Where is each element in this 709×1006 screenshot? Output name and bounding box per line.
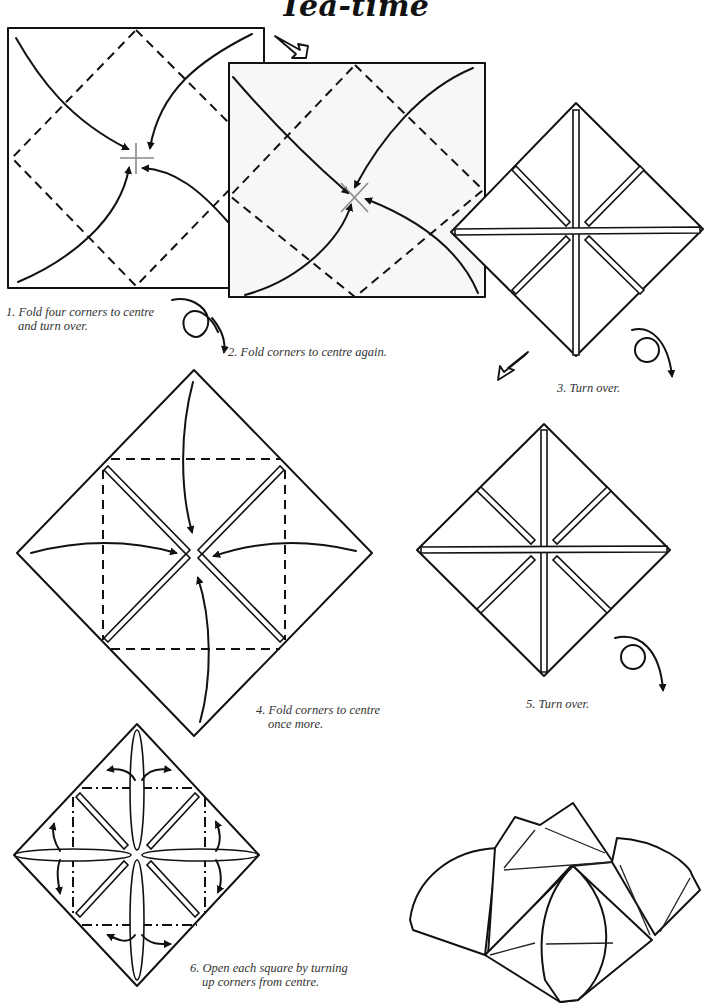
step6-caption: 6. Open each square by turning up corner… bbox=[190, 961, 348, 989]
step2-caption: 2. Fold corners to centre again. bbox=[228, 345, 387, 359]
turn-over-icon bbox=[615, 637, 663, 690]
next-step-arrow-icon bbox=[498, 352, 528, 380]
step6-diamond bbox=[14, 724, 259, 986]
step2-square bbox=[229, 63, 485, 297]
turn-over-icon bbox=[632, 329, 672, 376]
step4-caption-line2: once more. bbox=[256, 717, 380, 731]
step3-diamond bbox=[451, 103, 703, 356]
step3-caption: 3. Turn over. bbox=[557, 381, 620, 395]
step5-caption: 5. Turn over. bbox=[526, 697, 589, 711]
step1-caption: 1. Fold four corners to centre and turn … bbox=[6, 305, 154, 333]
next-step-arrow-icon bbox=[275, 36, 308, 58]
step6-caption-line2: up corners from centre. bbox=[190, 975, 348, 989]
step1-caption-line2: and turn over. bbox=[6, 319, 154, 333]
step5-caption-line1: 5. Turn over. bbox=[526, 697, 589, 711]
turn-over-icon bbox=[172, 299, 225, 352]
step4-diamond bbox=[17, 370, 372, 736]
origami-diagram bbox=[0, 0, 709, 1006]
step4-caption: 4. Fold corners to centre once more. bbox=[256, 703, 380, 731]
finished-model bbox=[410, 803, 700, 1002]
step3-caption-line1: 3. Turn over. bbox=[557, 381, 620, 395]
step1-caption-line1: 1. Fold four corners to centre bbox=[6, 305, 154, 319]
step1-square bbox=[8, 28, 264, 288]
step6-caption-line1: 6. Open each square by turning bbox=[190, 961, 348, 975]
step4-caption-line1: 4. Fold corners to centre bbox=[256, 703, 380, 717]
step2-caption-line1: 2. Fold corners to centre again. bbox=[228, 345, 387, 359]
